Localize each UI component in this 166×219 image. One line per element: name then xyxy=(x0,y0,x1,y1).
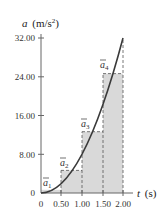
bar-a4 xyxy=(103,74,123,193)
label-a3: a3 xyxy=(81,118,90,131)
x-tick-2: 2.00 xyxy=(115,199,131,209)
x-tick-0: 0 xyxy=(39,199,44,209)
y-tick-8: 8.00 xyxy=(19,150,35,160)
y-tick-24: 24.00 xyxy=(15,72,36,82)
acceleration-chart: 32.00 24.00 16.00 8.00 0 0 0.50 1.00 1.5… xyxy=(0,0,166,219)
label-a2: a2 xyxy=(60,157,69,170)
y-tick-16: 16.00 xyxy=(15,111,36,121)
y-tick-32: 32.00 xyxy=(15,33,36,43)
x-tick-0.5: 0.50 xyxy=(53,199,69,209)
label-a1: a1 xyxy=(43,177,52,190)
y-axis-label: a (m/s2) xyxy=(22,17,59,30)
y-tick-0: 0 xyxy=(31,188,36,198)
x-axis-label: t (s) xyxy=(137,187,157,200)
label-a4: a4 xyxy=(100,59,109,72)
bar-a3 xyxy=(82,132,103,193)
x-tick-1: 1.00 xyxy=(74,199,90,209)
x-tick-1.5: 1.50 xyxy=(95,199,111,209)
